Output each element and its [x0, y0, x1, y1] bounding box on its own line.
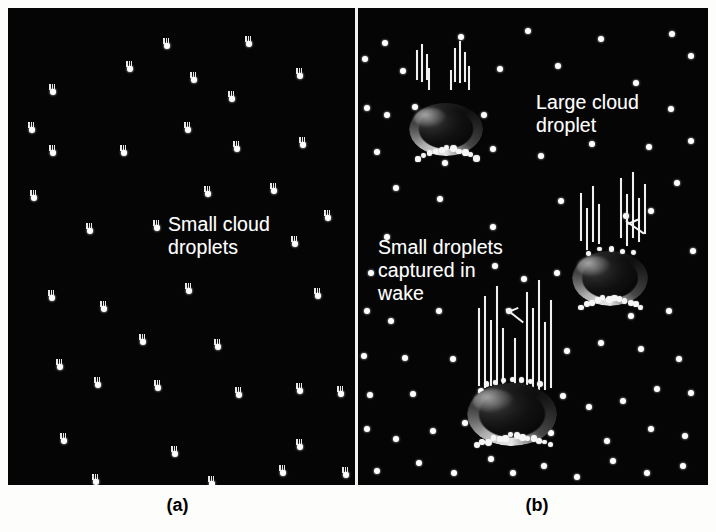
- small-droplet-dot: [450, 356, 456, 362]
- small-droplet-dot: [560, 393, 566, 399]
- small-cloud-droplet: [233, 141, 240, 152]
- wake-streak-line: [464, 52, 466, 82]
- captured-droplet-beads: [411, 141, 480, 159]
- small-droplet-dot: [364, 105, 370, 111]
- captured-droplet-bead: [586, 251, 591, 256]
- wake-streak-line: [632, 172, 634, 238]
- captured-droplet-bead: [468, 152, 473, 157]
- captured-droplet-bead: [501, 378, 506, 383]
- small-droplet-dot: [554, 270, 560, 276]
- small-droplet-dot: [374, 468, 380, 474]
- small-droplet-dot: [666, 308, 672, 314]
- captured-droplet-bead: [620, 249, 625, 254]
- small-droplet-dot: [676, 356, 682, 362]
- small-droplet-dot: [416, 460, 422, 466]
- small-cloud-droplet: [171, 446, 178, 457]
- small-cloud-droplet: [120, 145, 127, 156]
- captured-droplet-bead: [597, 247, 602, 252]
- small-droplet-dot: [628, 313, 634, 319]
- small-cloud-droplet: [126, 61, 133, 72]
- small-droplet-dot: [598, 340, 604, 346]
- captured-droplet-bead: [528, 379, 533, 384]
- captured-droplet-bead: [525, 436, 530, 441]
- small-droplet-dot: [490, 146, 496, 152]
- wake-streak-line: [586, 208, 588, 250]
- captured-droplet-bead: [537, 381, 543, 387]
- wake-streak-line: [484, 296, 486, 388]
- wake-streak-line: [421, 44, 423, 82]
- small-droplet-dot: [646, 144, 652, 150]
- small-cloud-droplet: [49, 145, 56, 156]
- wake-streak-line: [538, 280, 540, 390]
- small-cloud-droplet: [324, 210, 331, 221]
- small-droplet-dot: [638, 346, 644, 352]
- small-cloud-droplet: [208, 476, 215, 485]
- small-droplet-dot: [564, 348, 570, 354]
- small-droplet-dot: [437, 196, 443, 202]
- wake-captured-beads: [586, 246, 633, 259]
- wake-streak-line: [502, 328, 504, 384]
- small-droplet-dot: [402, 355, 408, 361]
- small-droplet-dot: [410, 391, 416, 397]
- small-droplet-dot: [388, 318, 394, 324]
- small-droplet-dot: [620, 398, 626, 404]
- captured-droplet-bead: [456, 149, 462, 155]
- small-cloud-droplet: [314, 288, 321, 299]
- small-droplet-dot: [436, 308, 442, 314]
- small-droplet-dot: [521, 276, 527, 282]
- captured-droplet-bead: [421, 153, 426, 158]
- small-droplet-dot: [555, 63, 561, 69]
- small-cloud-droplet: [48, 290, 55, 301]
- small-droplet-dot: [442, 160, 448, 166]
- annotation-small-cloud-droplets: Small cloud droplets: [168, 213, 270, 259]
- small-cloud-droplet: [185, 283, 192, 294]
- wake-captured-beads: [484, 377, 540, 392]
- small-cloud-droplet: [49, 84, 56, 95]
- small-cloud-droplet: [153, 220, 160, 231]
- panel-a-small-cloud-droplets: Small cloud droplets: [8, 8, 355, 485]
- small-droplet-dot: [558, 198, 564, 204]
- small-droplet-dot: [668, 106, 674, 112]
- small-droplet-dot: [688, 53, 694, 59]
- small-droplet-dot: [604, 438, 610, 444]
- small-cloud-droplet: [342, 467, 349, 478]
- wake-streak-line: [644, 184, 646, 234]
- captured-droplet-bead: [415, 156, 420, 161]
- small-droplet-dot: [497, 66, 503, 72]
- wake-streak-line: [544, 322, 546, 390]
- small-cloud-droplet: [296, 439, 303, 450]
- small-droplet-dot: [384, 112, 390, 118]
- wake-streak-line: [416, 50, 418, 80]
- small-droplet-dot: [538, 153, 544, 159]
- captured-droplet-bead: [427, 150, 432, 155]
- wake-streak-line: [598, 204, 600, 244]
- small-droplet-dot: [669, 31, 675, 37]
- small-cloud-droplet: [60, 433, 67, 444]
- small-droplet-dot: [367, 392, 373, 398]
- small-cloud-droplet: [279, 465, 286, 476]
- small-cloud-droplet: [299, 137, 306, 148]
- small-droplet-dot: [690, 248, 696, 254]
- small-cloud-droplet: [245, 36, 252, 47]
- small-droplet-dot: [400, 68, 406, 74]
- droplet-highlight: [473, 389, 513, 413]
- wake-streak-line: [592, 186, 594, 242]
- small-droplet-dot: [654, 386, 660, 392]
- small-droplet-dot: [430, 428, 436, 434]
- annotation-large-cloud-droplet: Large cloud droplet: [536, 91, 639, 137]
- captured-droplet-bead: [609, 246, 615, 252]
- small-droplet-dot: [688, 390, 694, 396]
- captured-droplet-bead: [548, 442, 553, 447]
- wake-streak-line: [468, 66, 470, 90]
- small-cloud-droplet: [235, 387, 242, 398]
- small-cloud-droplet: [30, 190, 37, 201]
- small-cloud-droplet: [184, 122, 191, 133]
- small-droplet-dot: [488, 456, 494, 462]
- captured-droplet-bead: [542, 440, 547, 445]
- small-cloud-droplet: [86, 223, 93, 234]
- captured-droplet-bead: [510, 377, 515, 382]
- small-droplet-dot: [364, 308, 370, 314]
- small-cloud-droplet: [163, 38, 170, 49]
- wake-streak-line: [580, 193, 582, 241]
- upper-large-droplet: [410, 103, 482, 155]
